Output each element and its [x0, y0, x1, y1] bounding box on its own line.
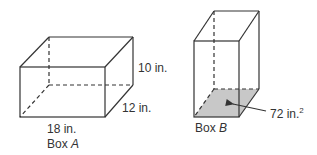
- box-b-title-prefix: Box: [195, 121, 219, 135]
- box-b-area-exponent: 2: [299, 106, 303, 115]
- box-b-prism: [194, 11, 266, 117]
- box-a-title: Box A: [47, 138, 79, 150]
- box-b-title: Box B: [195, 122, 227, 134]
- box-a-title-prefix: Box: [47, 137, 71, 151]
- box-a-width-label: 12 in.: [122, 102, 151, 114]
- box-b-area-label: 72 in.2: [270, 107, 304, 120]
- box-a-title-letter: A: [71, 137, 79, 151]
- box-b-area-value: 72 in.: [270, 107, 299, 121]
- box-a-length-label: 18 in.: [47, 123, 76, 135]
- box-b-title-letter: B: [219, 121, 227, 135]
- box-a-prism: [20, 37, 133, 117]
- box-a-height-label: 10 in.: [138, 62, 167, 74]
